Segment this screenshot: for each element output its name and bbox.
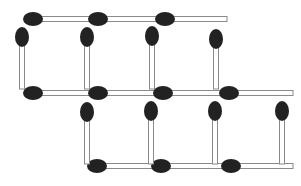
- matchstick-vertical[interactable]: [208, 101, 222, 164]
- match-head: [88, 86, 108, 100]
- match-head: [23, 86, 43, 100]
- matchstick-puzzle: [0, 0, 301, 186]
- match-head: [15, 27, 29, 47]
- match-head: [80, 102, 94, 122]
- match-head: [275, 101, 289, 121]
- match-head: [208, 101, 222, 121]
- matchstick-vertical[interactable]: [209, 29, 223, 89]
- matchstick-horizontal[interactable]: [23, 12, 99, 26]
- match-head: [153, 86, 173, 100]
- matchstick-horizontal[interactable]: [88, 12, 164, 26]
- match-head: [144, 101, 158, 121]
- matchstick-horizontal[interactable]: [219, 86, 293, 100]
- matchstick-vertical[interactable]: [275, 101, 289, 164]
- matchstick-horizontal[interactable]: [155, 12, 227, 26]
- matchstick-vertical[interactable]: [80, 102, 94, 164]
- matchstick-vertical[interactable]: [80, 27, 94, 89]
- matchstick-vertical[interactable]: [145, 26, 159, 89]
- match-head: [155, 12, 175, 26]
- matchstick-vertical[interactable]: [15, 27, 29, 89]
- match-head: [23, 12, 43, 26]
- match-head: [80, 27, 94, 47]
- match-head: [219, 86, 239, 100]
- match-head: [209, 29, 223, 49]
- match-head: [88, 12, 108, 26]
- match-head: [221, 159, 241, 173]
- matchstick-vertical[interactable]: [144, 101, 158, 164]
- match-head: [145, 26, 159, 46]
